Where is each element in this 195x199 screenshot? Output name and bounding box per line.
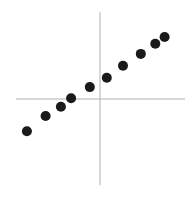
data-point <box>66 93 76 103</box>
data-point <box>22 126 32 136</box>
data-point <box>136 49 146 59</box>
data-point <box>150 39 160 49</box>
scatter-plot-area <box>0 0 195 199</box>
data-points <box>22 32 170 136</box>
data-point <box>56 102 66 112</box>
scatter-chart <box>0 0 195 199</box>
data-point <box>160 32 170 42</box>
data-point <box>118 61 128 71</box>
data-point <box>102 73 112 83</box>
data-point <box>85 82 95 92</box>
data-point <box>41 111 51 121</box>
